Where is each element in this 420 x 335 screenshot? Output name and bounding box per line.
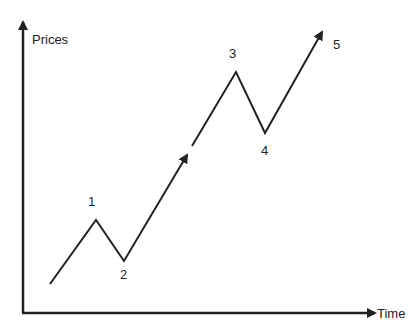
wave-label-1: 1 <box>88 195 95 208</box>
wave-label-4: 4 <box>261 144 268 157</box>
y-axis-label: Prices <box>32 33 68 46</box>
wave-line-3-5 <box>192 32 322 146</box>
wave-label-3: 3 <box>229 47 236 60</box>
wave-label-2: 2 <box>120 268 127 281</box>
wave-label-5: 5 <box>333 38 340 51</box>
wave-line-1-2 <box>50 155 187 284</box>
wave-diagram <box>0 0 420 335</box>
x-axis-label: Time <box>377 307 405 320</box>
